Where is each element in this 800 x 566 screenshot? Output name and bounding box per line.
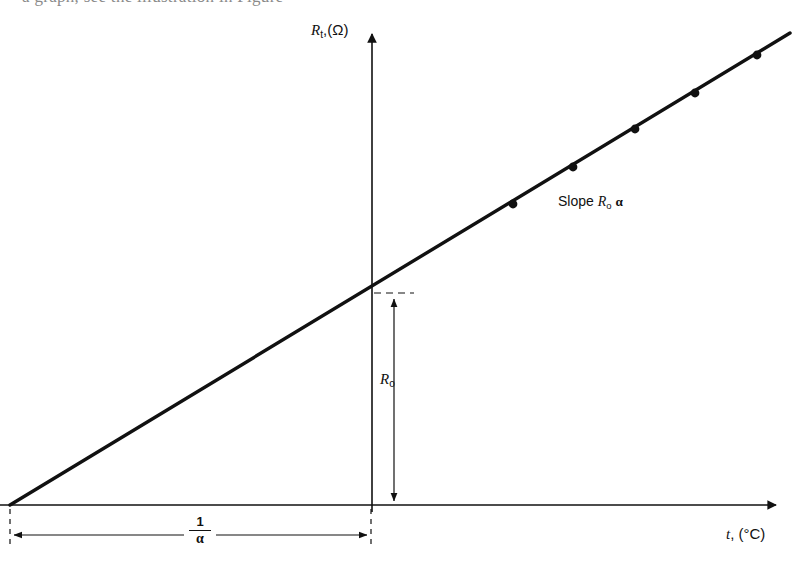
data-point: [631, 125, 640, 134]
slope-annotation: Slope Ro α: [558, 194, 623, 211]
data-line: [10, 33, 790, 505]
inverse-alpha-annotation: 1 α: [185, 515, 215, 546]
slope-word: Slope: [558, 193, 594, 209]
intercept-annotation: Ro: [380, 371, 395, 389]
data-point: [753, 51, 762, 60]
intercept-symbol: R: [380, 371, 389, 387]
intercept-subscript: o: [389, 378, 395, 389]
data-point: [509, 200, 518, 209]
y-axis-label: Rt,(Ω): [311, 22, 348, 40]
data-point: [691, 89, 700, 98]
data-point: [569, 163, 578, 172]
x-axis-units: (°C): [739, 525, 766, 542]
plot-graphics: [0, 0, 800, 566]
slope-subscript: o: [606, 200, 611, 211]
slope-symbol: R: [598, 194, 607, 209]
slope-alpha: α: [615, 194, 622, 209]
fraction-denominator: α: [185, 532, 215, 547]
x-axis-label: t, (°C): [726, 526, 765, 542]
fraction-numerator: 1: [185, 515, 215, 529]
x-axis-comma: ,: [730, 525, 734, 542]
figure-canvas: a graph, see the illustration in Figure: [0, 0, 800, 566]
y-axis-symbol: R: [311, 22, 320, 38]
y-axis-units: (Ω): [327, 21, 348, 38]
